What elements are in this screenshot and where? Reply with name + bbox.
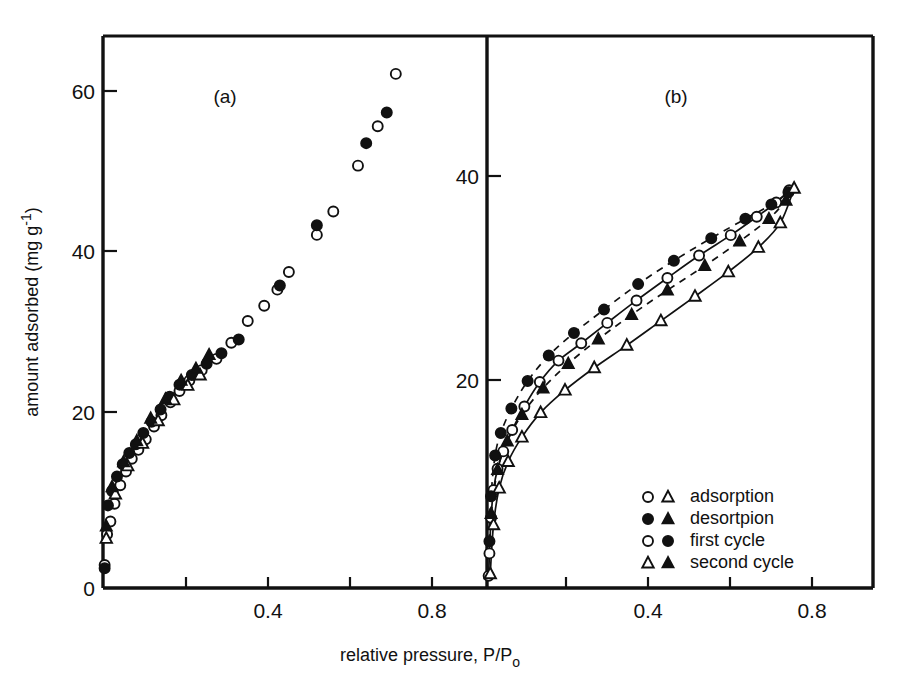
data-point — [621, 339, 632, 350]
xtick-label-b-0p8: 0.8 — [797, 599, 826, 622]
data-point — [259, 301, 269, 311]
data-point — [752, 212, 762, 222]
data-point — [155, 404, 165, 414]
y-axis-title-main: amount adsorbed (mg g — [22, 226, 42, 417]
legend-marker-open-circle — [643, 536, 653, 546]
data-point — [234, 334, 244, 344]
data-point — [391, 69, 401, 79]
data-point — [361, 138, 371, 148]
data-point — [243, 316, 253, 326]
legend-marker-open-triangle — [662, 491, 673, 502]
legend-marker-filled-circle — [663, 536, 673, 546]
data-point — [373, 121, 383, 131]
data-point — [602, 318, 612, 328]
data-point — [633, 279, 643, 289]
data-point — [112, 471, 122, 481]
panel-a-y-ticks — [103, 91, 117, 412]
panel-a-y-ticklabels: 60 40 20 0 — [72, 80, 95, 600]
data-point — [576, 338, 586, 348]
data-point — [766, 199, 776, 209]
data-point — [353, 161, 363, 171]
legend-marker-filled-triangle — [662, 557, 673, 568]
markers-first-cycle-adsorption — [100, 69, 401, 570]
y-axis-title-tail: ) — [22, 207, 42, 213]
data-point — [689, 290, 700, 301]
markers-second-cycle-adsorption — [101, 369, 206, 543]
data-point — [706, 233, 716, 243]
data-point — [775, 217, 786, 228]
legend-label-adsorption: adsorption — [690, 486, 774, 506]
y-axis-title-sup: -1 — [18, 213, 34, 226]
legend-marker-filled-triangle — [662, 513, 673, 524]
legend-label-first-cycle: first cycle — [690, 530, 765, 550]
data-point — [763, 213, 774, 224]
y-axis-title: amount adsorbed (mg g-1) — [18, 207, 42, 417]
panel-b-y-ticklabels: 40 20 — [456, 165, 479, 392]
data-point — [599, 304, 609, 314]
data-point — [554, 356, 564, 366]
markers-second-cycle-desorption — [485, 194, 791, 518]
legend-marker-filled-circle — [643, 514, 653, 524]
data-point — [662, 284, 673, 295]
data-point — [275, 280, 285, 290]
data-point — [99, 563, 109, 573]
ytick-label-a-60: 60 — [72, 80, 95, 103]
panel-b-x-ticklabels: 0.4 0.8 — [633, 599, 826, 622]
data-point — [626, 309, 637, 320]
figure-container: 60 40 20 0 0.4 0.8 40 20 — [0, 0, 910, 696]
data-point — [216, 348, 226, 358]
data-point — [484, 536, 494, 546]
legend: adsorptiondesortpionfirst cyclesecond cy… — [642, 486, 794, 572]
ytick-label-a-40: 40 — [72, 240, 95, 263]
data-point — [544, 350, 554, 360]
data-point — [655, 315, 666, 326]
data-point — [593, 333, 604, 344]
svg-text:amount adsorbed (mg g-1): amount adsorbed (mg g-1) — [18, 207, 42, 417]
data-point — [284, 267, 294, 277]
data-point — [563, 357, 574, 368]
data-point — [740, 214, 750, 224]
panel-a-x-ticklabels: 0.4 0.8 — [253, 599, 446, 622]
adsorption-isotherm-figure: 60 40 20 0 0.4 0.8 40 20 — [0, 0, 910, 696]
panel-a-series — [99, 69, 400, 573]
data-point — [694, 251, 704, 261]
curve-second-cycle-desorption — [491, 200, 786, 513]
legend-label-second-cycle: second cycle — [690, 552, 794, 572]
svg-text:relative pressure, P/Po: relative pressure, P/Po — [340, 645, 520, 670]
data-point — [662, 273, 672, 283]
data-point — [669, 255, 679, 265]
data-point — [559, 384, 570, 395]
panel-b-y-ticks — [487, 176, 501, 380]
ytick-label-b-20: 20 — [456, 369, 479, 392]
x-axis-title: relative pressure, P/Po — [340, 645, 520, 670]
data-point — [589, 362, 600, 373]
data-point — [203, 349, 214, 360]
x-axis-title-main: relative pressure, P/P — [340, 645, 512, 665]
ytick-label-a-20: 20 — [72, 401, 95, 424]
data-point — [507, 425, 517, 435]
xtick-label-b-0p4: 0.4 — [633, 599, 663, 622]
ytick-label-a-0: 0 — [83, 577, 95, 600]
markers-first-cycle-desorption — [99, 107, 392, 573]
data-point — [506, 403, 516, 413]
data-point — [632, 295, 642, 305]
data-point — [312, 220, 322, 230]
legend-label-desortpion: desortpion — [690, 508, 774, 528]
legend-marker-open-circle — [643, 492, 653, 502]
xtick-label-a-0p8: 0.8 — [417, 599, 446, 622]
data-point — [723, 266, 734, 277]
x-axis-title-sub: o — [512, 654, 520, 670]
data-point — [103, 500, 113, 510]
panel-a-label: (a) — [213, 86, 236, 107]
ytick-label-b-40: 40 — [456, 165, 479, 188]
data-point — [490, 450, 500, 460]
data-point — [312, 230, 322, 240]
data-point — [484, 548, 494, 558]
panel-b-label: (b) — [664, 86, 687, 107]
data-point — [328, 207, 338, 217]
data-point — [496, 428, 506, 438]
data-point — [726, 230, 736, 240]
data-point — [569, 328, 579, 338]
data-point — [382, 107, 392, 117]
data-point — [522, 376, 532, 386]
